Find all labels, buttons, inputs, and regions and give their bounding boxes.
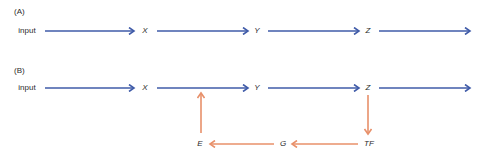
panel-b-label: (B) xyxy=(14,66,25,76)
node-x: X xyxy=(142,83,147,93)
node-x: X xyxy=(142,26,147,36)
node-e: E xyxy=(197,139,202,149)
node-y: Y xyxy=(254,83,259,93)
node-input: input xyxy=(18,26,35,36)
node-y: Y xyxy=(254,26,259,36)
node-input: input xyxy=(18,83,35,93)
node-g: G xyxy=(280,139,286,149)
node-tf: TF xyxy=(364,139,374,149)
node-z: Z xyxy=(366,26,371,36)
panel-b-feedback-arrows xyxy=(201,93,368,144)
diagram-arrows xyxy=(0,0,482,159)
node-z: Z xyxy=(366,83,371,93)
panel-a-label: (A) xyxy=(14,7,25,17)
